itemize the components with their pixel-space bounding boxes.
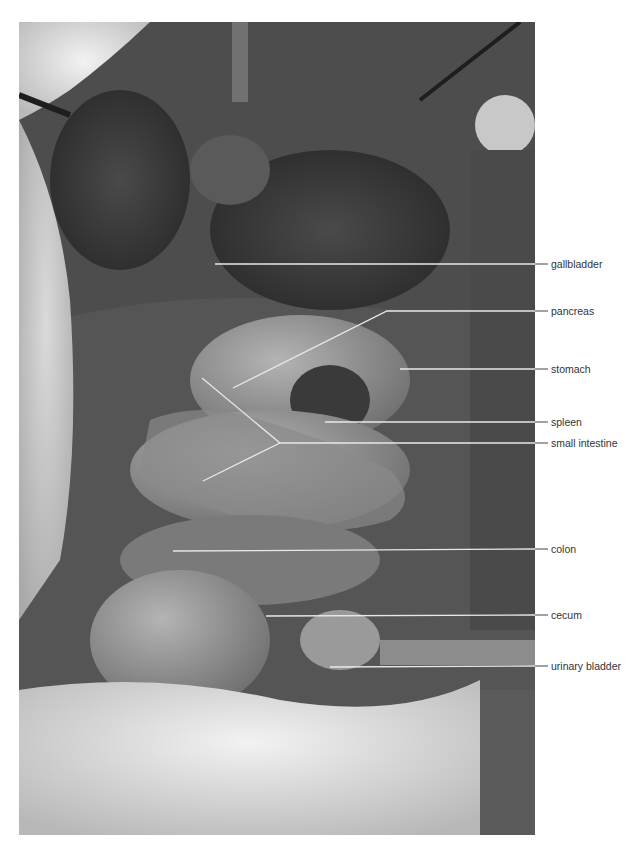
fur-top-right <box>475 95 535 155</box>
bladder-region <box>300 610 380 670</box>
figure: gallbladder pancreas stomach spleen smal… <box>0 0 638 850</box>
label-spleen: spleen <box>551 416 582 428</box>
label-urinary-bladder: urinary bladder <box>551 660 621 672</box>
label-small-intestine: small intestine <box>551 437 618 449</box>
label-colon: colon <box>551 543 576 555</box>
liver-left-lobe <box>50 90 190 270</box>
label-pancreas: pancreas <box>551 305 594 317</box>
heart <box>190 135 270 205</box>
label-stomach: stomach <box>551 363 591 375</box>
leg-bone <box>380 640 535 665</box>
dissection-photo <box>0 0 638 850</box>
right-body-wall <box>470 150 535 630</box>
trachea <box>232 22 248 102</box>
label-cecum: cecum <box>551 609 582 621</box>
fur-bottom <box>19 680 480 835</box>
table-bottom-right <box>480 690 535 835</box>
label-gallbladder: gallbladder <box>551 258 602 270</box>
